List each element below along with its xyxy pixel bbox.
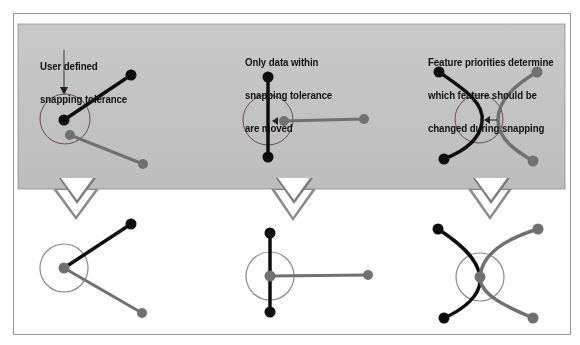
panel-1-caption: User defined snapping tolerance bbox=[40, 39, 127, 116]
panel-2-caption: Only data within snapping tolerance are … bbox=[245, 35, 332, 145]
caption-line: Feature priorities determine bbox=[428, 57, 554, 68]
panel-3-caption: Feature priorities determine which featu… bbox=[428, 35, 554, 145]
caption-line: snapping tolerance bbox=[40, 94, 127, 105]
caption-line: snapping tolerance bbox=[245, 90, 332, 101]
caption-line: changed during snapping bbox=[428, 123, 554, 134]
caption-line: Only data within bbox=[245, 57, 332, 68]
caption-line: User defined bbox=[40, 61, 127, 72]
caption-line: are moved bbox=[245, 123, 332, 134]
caption-line: which feature should be bbox=[428, 90, 554, 101]
